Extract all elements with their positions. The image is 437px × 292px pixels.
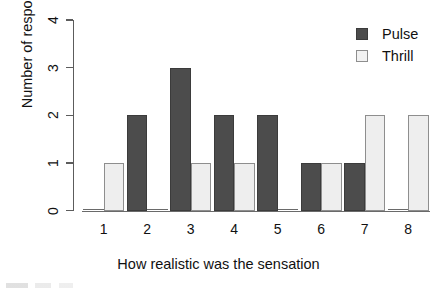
y-tick-label-4: 4: [46, 7, 60, 33]
y-axis-label: Number of responses: [16, 0, 38, 134]
x-tick-label-7: 7: [350, 221, 380, 237]
x-tick-label-4: 4: [219, 221, 249, 237]
bar-pulse-3: [170, 68, 191, 211]
legend-label-pulse: Pulse: [382, 24, 418, 44]
x-tick-label-8: 8: [393, 221, 423, 237]
bar-pulse-4: [214, 115, 235, 210]
x-tick-label-5: 5: [263, 221, 293, 237]
bar-pulse-5: [257, 115, 278, 210]
y-axis-line: [73, 20, 74, 211]
bar-pulse-2: [127, 115, 148, 210]
bar-thrill-1: [104, 163, 125, 211]
x-tick-label-1: 1: [89, 221, 119, 237]
y-tick-0: [66, 210, 73, 211]
y-tick-3: [66, 67, 73, 68]
x-tick-label-3: 3: [176, 221, 206, 237]
bar-thrill-4: [234, 163, 255, 211]
y-tick-label-3: 3: [46, 55, 60, 81]
legend-swatch-thrill: [356, 50, 368, 62]
bar-thrill-8: [408, 115, 429, 210]
bar-thrill-7: [365, 115, 386, 210]
y-tick-2: [66, 115, 73, 116]
y-tick-1: [66, 162, 73, 163]
bar-pulse-6: [301, 163, 322, 211]
legend-swatch-pulse: [356, 28, 368, 40]
x-tick-label-2: 2: [132, 221, 162, 237]
y-tick-label-2: 2: [46, 102, 60, 128]
y-tick-label-0: 0: [46, 198, 60, 224]
y-tick-label-1: 1: [46, 150, 60, 176]
scan-edge-artifact: [6, 283, 92, 288]
bar-pulse-7: [344, 163, 365, 211]
bar-thrill-3: [191, 163, 212, 211]
bar-chart: Number of responses 01234 12345678 How r…: [0, 0, 437, 292]
bar-thrill-6: [321, 163, 342, 211]
x-axis-label: How realistic was the sensation: [0, 256, 437, 272]
legend-label-thrill: Thrill: [382, 46, 413, 66]
x-axis-line: [82, 211, 430, 212]
x-tick-label-6: 6: [306, 221, 336, 237]
y-tick-4: [66, 19, 73, 20]
